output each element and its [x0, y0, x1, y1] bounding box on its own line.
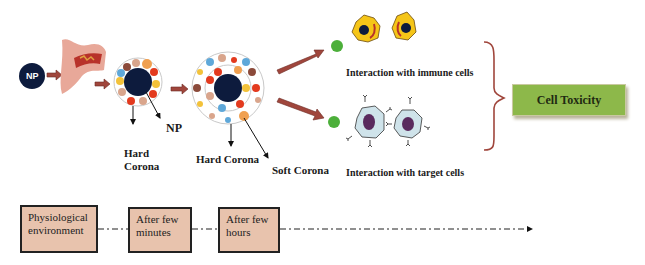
hard-corona-line1: Hard — [124, 147, 159, 160]
immune-interaction-label: Interaction with immune cells — [346, 66, 474, 79]
np-start-label: NP — [26, 70, 39, 83]
cell-toxicity-box: Cell Toxicity — [512, 84, 626, 116]
timeline-stage: After few hours — [218, 207, 280, 253]
hard-corona-label: Hard Corona — [124, 147, 159, 173]
timeline-stage: After few minutes — [128, 207, 192, 253]
pointer-line — [244, 118, 268, 158]
timeline-stage: Physiological environment — [20, 205, 98, 253]
stage-line1: After few — [136, 213, 184, 226]
soft-corona-particle-icon — [192, 52, 264, 124]
hard-corona-label-2: Hard Corona — [196, 153, 259, 166]
immune-cell-icon — [352, 12, 416, 42]
target-cell-icon — [346, 95, 430, 147]
hard-corona-line2: Corona — [124, 160, 159, 173]
nanoparticle-corona-icon — [328, 40, 343, 128]
hard-corona-particle-icon — [114, 58, 162, 106]
stage-line2: minutes — [136, 226, 184, 239]
stage-line2: hours — [226, 226, 272, 239]
target-interaction-label: Interaction with target cells — [346, 166, 464, 179]
np-label: NP — [166, 122, 182, 135]
soft-corona-label: Soft Corona — [272, 164, 329, 177]
stage-line1: Physiological — [28, 211, 90, 224]
stage-line1: After few — [226, 213, 272, 226]
branch-arrow-icon — [277, 50, 324, 120]
stage-line2: environment — [28, 224, 90, 237]
timeline-arrowhead-icon — [527, 226, 533, 232]
bracket-icon — [484, 42, 504, 150]
